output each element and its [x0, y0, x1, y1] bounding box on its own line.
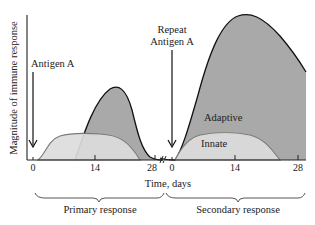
antigen-a-label: Antigen A — [31, 58, 75, 69]
tick-label-p14: 14 — [90, 162, 100, 173]
tick-label-s28: 28 — [293, 162, 303, 173]
tick-label-s0: 0 — [170, 162, 175, 173]
innate-label: Innate — [201, 138, 228, 149]
immune-response-diagram: 0 14 28 0 14 28 Time, days Magnitude of … — [0, 0, 315, 225]
adaptive-label: Adaptive — [204, 112, 243, 123]
tick-label-p28: 28 — [147, 162, 157, 173]
secondary-response-label: Secondary response — [196, 204, 280, 215]
secondary-bracket — [166, 193, 305, 202]
primary-bracket — [35, 193, 164, 202]
y-axis-label: Magnitude of immune response — [8, 21, 19, 155]
tick-label-p0: 0 — [31, 162, 36, 173]
primary-response-label: Primary response — [63, 204, 137, 215]
repeat-antigen-label-2: Antigen A — [150, 36, 194, 47]
repeat-antigen-label-1: Repeat — [157, 24, 186, 35]
x-axis-label: Time, days — [145, 178, 191, 189]
tick-label-s14: 14 — [230, 162, 240, 173]
